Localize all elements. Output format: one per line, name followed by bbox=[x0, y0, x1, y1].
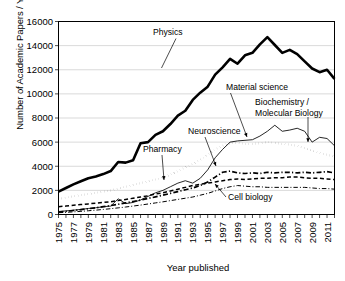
series-line-pharmacy bbox=[59, 177, 335, 207]
x-tick-label: 2011 bbox=[322, 222, 333, 242]
x-tick-label: 2001 bbox=[247, 222, 258, 243]
leader-arrow-pharmacy bbox=[162, 176, 165, 180]
y-tick-label: 0 bbox=[48, 209, 53, 220]
x-tick-label: 1979 bbox=[83, 222, 94, 243]
y-tick-label: 14000 bbox=[27, 40, 53, 51]
x-tick-label: 1981 bbox=[98, 222, 109, 243]
y-tick-label: 10000 bbox=[27, 88, 53, 99]
x-tick-label: 1975 bbox=[53, 222, 64, 243]
x-tick-label: 1995 bbox=[202, 222, 213, 243]
series-line-biochemistry-molecular-biology bbox=[59, 125, 335, 211]
annotation-label-cell-biology: Cell biology bbox=[228, 192, 273, 202]
x-tick-label: 2009 bbox=[307, 222, 318, 243]
x-axis-ticks: 1975197719791981198319851987198919911993… bbox=[53, 215, 334, 244]
y-tick-label: 6000 bbox=[32, 137, 53, 148]
chart-svg: 0200040006000800010000120001400016000 19… bbox=[0, 0, 345, 281]
y-axis-ticks: 0200040006000800010000120001400016000 bbox=[27, 16, 59, 220]
x-tick-label: 1991 bbox=[172, 222, 183, 243]
series-lines bbox=[59, 37, 335, 213]
leader-line-physics bbox=[162, 39, 177, 69]
leader-arrow-material-science bbox=[244, 133, 247, 137]
series-line-neuroscience bbox=[59, 171, 335, 212]
annotation-label-physics: Physics bbox=[153, 27, 183, 37]
chart-container: Number of Academic Papers / Year Year pu… bbox=[0, 0, 345, 281]
x-tick-label: 2005 bbox=[277, 222, 288, 243]
x-tick-label: 1993 bbox=[187, 222, 198, 243]
leader-line-neuroscience bbox=[205, 137, 216, 166]
annotation-label-biochemistry-molecular-biology: Biochemistry /Molecular Biology bbox=[255, 97, 324, 118]
y-tick-label: 8000 bbox=[32, 112, 53, 123]
leader-arrow-biochemistry-molecular-biology bbox=[306, 138, 309, 142]
series-line-cell-biology bbox=[59, 186, 335, 213]
x-tick-label: 2007 bbox=[292, 222, 303, 243]
x-tick-label: 1999 bbox=[232, 222, 243, 243]
y-tick-label: 12000 bbox=[27, 64, 53, 75]
x-tick-label: 1997 bbox=[217, 222, 228, 243]
y-tick-label: 2000 bbox=[32, 185, 53, 196]
x-tick-label: 1977 bbox=[68, 222, 79, 243]
x-tick-label: 1983 bbox=[113, 222, 124, 243]
x-tick-label: 1985 bbox=[128, 222, 139, 243]
annotation-label-pharmacy: Pharmacy bbox=[143, 144, 182, 154]
x-tick-label: 1987 bbox=[143, 222, 154, 243]
leader-arrow-neuroscience bbox=[213, 162, 216, 166]
y-tick-label: 16000 bbox=[27, 16, 53, 27]
y-tick-label: 4000 bbox=[32, 161, 53, 172]
x-tick-label: 2003 bbox=[262, 222, 273, 243]
x-tick-label: 1989 bbox=[158, 222, 169, 243]
annotation-label-neuroscience: Neuroscience bbox=[188, 126, 241, 136]
annotation-label-material-science: Material science bbox=[226, 82, 288, 92]
